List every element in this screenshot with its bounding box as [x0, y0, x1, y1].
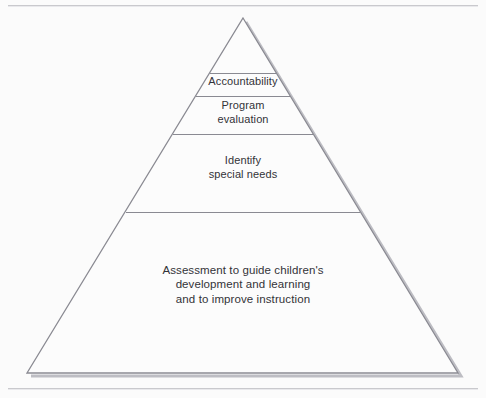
bottom-horizontal-rule — [8, 388, 478, 389]
pyramid-diagram — [0, 0, 486, 398]
pyramid-outline — [27, 18, 458, 373]
figure-canvas: Accountability Program evaluation Identi… — [0, 0, 486, 398]
